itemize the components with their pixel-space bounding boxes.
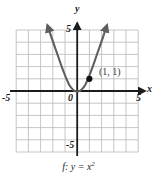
y-axis-tick-minus5: -5 [66,140,74,150]
origin-label: 0 [68,93,73,103]
x-axis-tick-5: 5 [136,93,141,103]
figure-caption: f: y = x2 [0,161,157,172]
caption-base: f: y = x [62,161,91,172]
y-axis-tick-5: 5 [66,24,71,34]
x-axis-tick-minus5: -5 [2,93,10,103]
coordinate-plane [0,0,157,175]
y-axis-label: y [75,4,79,14]
graph-figure: -5 5 5 -5 0 x y (1, 1) f: y = x2 [0,0,157,175]
point-label: (1, 1) [99,67,121,77]
data-point-1-1 [86,76,92,82]
caption-exponent: 2 [91,160,95,168]
x-axis-label: x [147,84,152,94]
